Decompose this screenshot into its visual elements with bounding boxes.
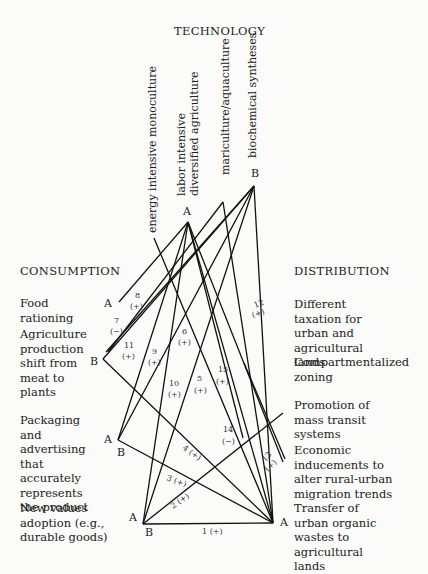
svg-text:1 (+): 1 (+) [202,527,223,536]
svg-text:9: 9 [152,347,157,356]
svg-text:4 (+): 4 (+) [181,443,203,462]
svg-text:(+): (+) [251,307,266,320]
svg-text:6: 6 [182,327,187,336]
svg-text:(+): (+) [148,358,161,367]
svg-text:14: 14 [223,425,233,434]
svg-text:(+): (+) [216,377,229,386]
svg-text:(+): (+) [178,338,191,347]
svg-text:5: 5 [197,374,202,383]
svg-text:(+): (+) [130,302,143,311]
svg-text:(+): (+) [168,390,181,399]
svg-text:(+): (+) [122,352,135,361]
svg-text:(−): (−) [110,327,123,336]
svg-text:15: 15 [218,365,228,374]
svg-text:10: 10 [169,379,179,388]
link-8-id: 8 [135,291,140,300]
svg-text:7: 7 [114,316,119,325]
svg-text:(+): (+) [194,386,207,395]
svg-text:(−): (−) [222,437,235,446]
svg-text:11: 11 [124,341,134,350]
